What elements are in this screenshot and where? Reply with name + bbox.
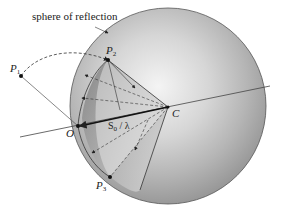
- point-p3: [108, 175, 112, 179]
- label-p3: P3: [96, 180, 106, 193]
- label-c: C: [172, 108, 179, 119]
- label-s0-lambda: S0 / λ: [108, 121, 130, 133]
- p1-o-line: [21, 76, 78, 126]
- label-p2: P2: [106, 45, 116, 58]
- point-c: [167, 106, 170, 109]
- label-o: O: [66, 128, 74, 139]
- sphere-label: sphere of reflection: [32, 11, 118, 22]
- point-p2: [106, 58, 110, 62]
- label-p1: P1: [10, 63, 20, 76]
- ewald-sphere-diagram: [0, 0, 281, 211]
- point-o: [76, 124, 80, 128]
